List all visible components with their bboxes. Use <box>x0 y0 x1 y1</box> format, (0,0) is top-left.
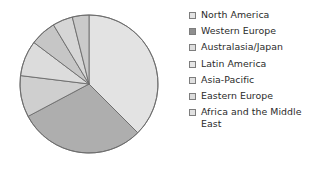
legend-item-label: North America <box>201 9 269 21</box>
legend-item-label: Australasia/Japan <box>201 41 283 53</box>
pie-chart-area <box>0 0 185 175</box>
legend-item-label: Asia-Pacific <box>201 74 254 86</box>
chart-legend: North America Western Europe Australasia… <box>189 9 322 134</box>
legend-item-africa-middle-east[interactable]: Africa and the Middle East <box>189 106 322 129</box>
legend-swatch-icon <box>189 61 196 68</box>
legend-item-australasia-japan[interactable]: Australasia/Japan <box>189 41 322 53</box>
legend-item-label: Africa and the Middle East <box>201 106 322 129</box>
legend-swatch-icon <box>189 93 196 100</box>
legend-swatch-icon <box>189 77 196 84</box>
legend-item-latin-america[interactable]: Latin America <box>189 58 322 70</box>
pie-chart-figure: North America Western Europe Australasia… <box>0 0 322 175</box>
legend-swatch-icon <box>189 28 196 35</box>
legend-item-north-america[interactable]: North America <box>189 9 322 21</box>
legend-item-label: Latin America <box>201 58 266 70</box>
legend-swatch-icon <box>189 109 196 116</box>
legend-item-western-europe[interactable]: Western Europe <box>189 25 322 37</box>
legend-swatch-icon <box>189 44 196 51</box>
legend-item-asia-pacific[interactable]: Asia-Pacific <box>189 74 322 86</box>
pie-chart-svg <box>0 0 185 175</box>
legend-swatch-icon <box>189 12 196 19</box>
legend-item-label: Eastern Europe <box>201 90 273 102</box>
pie-slice-group <box>20 15 158 153</box>
legend-item-label: Western Europe <box>201 25 276 37</box>
legend-item-eastern-europe[interactable]: Eastern Europe <box>189 90 322 102</box>
